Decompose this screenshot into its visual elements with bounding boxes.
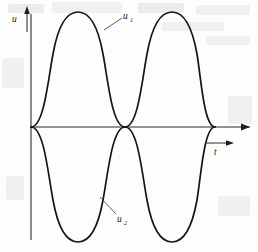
waveform-plot: u t u 1 u 2 (0, 0, 258, 252)
u-axis-direction-arrowhead (24, 6, 30, 14)
u-axis-label: u (12, 14, 17, 24)
t-axis-direction-arrowhead (226, 140, 234, 146)
t-axis-label: t (214, 147, 217, 157)
curve-u2 (31, 127, 215, 242)
curve-label-u2: u (117, 214, 122, 224)
curve-label-u2-subscript: 2 (124, 219, 127, 226)
curve-label-u1-subscript: 1 (130, 16, 133, 23)
horizontal-axis-arrowhead (241, 124, 250, 131)
curve-label-u1: u (123, 11, 128, 21)
waveform-figure: u t u 1 u 2 (0, 0, 258, 252)
leader-line-u1 (104, 18, 122, 30)
curve-u1 (31, 12, 215, 127)
